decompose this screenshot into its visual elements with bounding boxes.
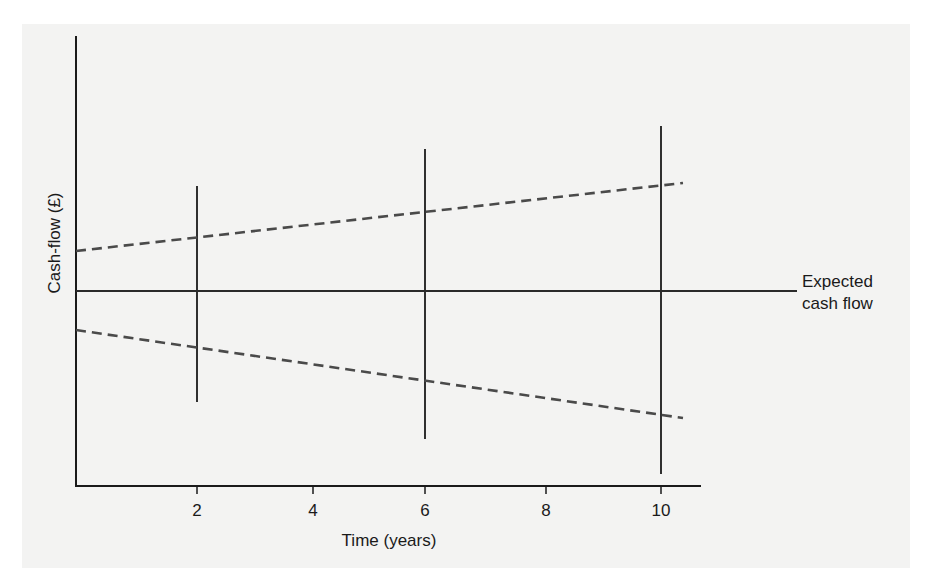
lower-bound-dashed-line xyxy=(76,330,683,418)
x-tick-labels: 2 4 6 8 10 xyxy=(192,501,670,520)
x-tick-label: 2 xyxy=(192,501,201,520)
range-bars xyxy=(197,126,661,474)
x-ticks xyxy=(197,486,661,494)
expected-cash-flow-label-line2: cash flow xyxy=(802,294,874,313)
expected-cash-flow-label-line1: Expected xyxy=(802,272,873,291)
x-tick-label: 10 xyxy=(652,501,671,520)
x-tick-label: 4 xyxy=(308,501,317,520)
cash-flow-risk-chart: 2 4 6 8 10 Time (years) Cash-flow (£) Ex… xyxy=(0,0,929,584)
x-tick-label: 8 xyxy=(541,501,550,520)
x-axis-title: Time (years) xyxy=(342,531,437,550)
upper-bound-dashed-line xyxy=(76,183,683,251)
x-tick-label: 6 xyxy=(420,501,429,520)
y-axis-title: Cash-flow (£) xyxy=(45,192,64,293)
